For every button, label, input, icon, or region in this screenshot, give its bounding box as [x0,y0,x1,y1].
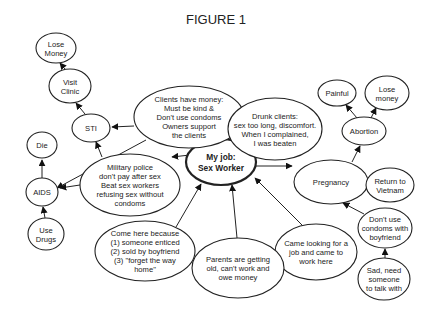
node-label-line: home" [134,265,156,274]
node-label-line: sex too long, discomfort. [234,121,316,130]
node-label-line: (1) someone enticed [110,238,179,247]
edge-use-drugs-to-aids [43,207,45,218]
node-label-line: Use [39,226,53,235]
node-lose-money-l: LoseMoney [36,33,76,63]
node-label-line: refusing sex without [96,190,164,199]
node-clients: Clients have money:Must be kind &Don't u… [134,86,244,148]
node-label-line: Lose [379,85,395,94]
node-label-line: Money [45,49,68,58]
node-label-line: work here [298,257,332,266]
node-parents: Parents are gettingold, can't work andow… [192,238,284,298]
node-label-line: condoms with [362,224,408,233]
node-lose-money-r: Losemoney [365,76,409,110]
node-label-line: Come here because [111,229,179,238]
node-label-line: My job: [206,152,235,162]
node-label-line: Military police [107,163,153,172]
node-die: Die [27,132,57,158]
node-label-line: Clients have money: [155,95,224,104]
node-label-line: Painful [325,89,349,98]
edge-parents-to-center [232,185,237,238]
node-label-line: Drunk clients: [252,112,298,121]
node-label-line: someone [368,275,399,284]
node-label-line: Clinic [61,87,80,96]
node-pregnancy: Pregnancy [294,160,368,204]
node-label-line: Parents are getting [206,255,270,264]
edge-visit-clinic-to-lose-money [60,63,65,69]
node-label-line: don't pay after sex [99,172,161,181]
node-label-line: condoms [115,199,146,208]
node-label-line: Die [36,141,47,150]
node-use-drugs: UseDrugs [28,218,64,250]
node-label-line: I was beaten [253,139,296,148]
node-label-line: Sad, need [367,266,402,275]
node-drunk: Drunk clients:sex too long, discomfort.W… [228,98,322,160]
edge-pregnancy-to-abortion [352,146,360,162]
node-label-line: boyfriend [369,233,400,242]
node-label-line: Owners support [162,122,216,131]
node-label-line: Pregnancy [313,178,350,187]
edge-dont-use-to-pregnancy [343,203,364,214]
node-visit-clinic: VisitClinic [49,69,91,103]
node-label-line: Don't use condoms [157,113,222,122]
node-sad: Sad, needsomeoneto talk with [358,258,410,300]
node-label-line: Vietnam [376,186,404,195]
edge-military-to-sti [96,142,102,157]
edge-abortion-to-lose-money [371,108,376,118]
node-label-line: When I complained, [241,130,308,139]
node-aids: AIDS [26,178,58,206]
node-label-line: (2) sold by boyfriend [111,247,180,256]
node-label-line: Return to [374,177,405,186]
node-sti: STI [72,114,110,142]
node-label-line: Don't use [369,215,401,224]
node-label-line: Visit [63,78,78,87]
node-label-line: AIDS [33,188,51,197]
node-return-vietnam: Return toVietnam [366,168,414,202]
node-label-line: (3) "forget the way [114,256,176,265]
node-label-line: Must be kind & [164,104,214,113]
node-label-line: to talk with [366,284,402,293]
node-label-line: old, can't work and [206,264,269,273]
concept-map: FIGURE 1 My job:Sex WorkerClients have m… [0,0,433,312]
node-label-line: Sex Worker [198,163,245,173]
node-label-line: Lose [48,40,64,49]
node-label-line: Came looking for a [284,239,349,248]
node-label-line: owe money [219,273,258,282]
edge-clients-to-sti [112,126,134,127]
edge-sti-to-visit-clinic [76,103,85,114]
node-label-line: the clients [172,131,206,140]
node-military: Military policedon't pay after sexBeat s… [80,154,180,216]
node-label-line: Drugs [36,235,56,244]
node-come-here: Come here because(1) someone enticed(2) … [95,221,195,281]
edge-abortion-to-painful [346,105,357,118]
node-label-line: STI [85,124,97,133]
node-label-line: job and came to [288,248,343,257]
node-abortion: Abortion [342,117,386,145]
figure-title: FIGURE 1 [186,12,246,27]
node-came-looking: Came looking for ajob and came towork he… [275,224,357,280]
node-dont-use: Don't usecondoms withboyfriend [358,208,412,248]
node-label-line: Beat sex workers [101,181,159,190]
nodes-layer: My job:Sex WorkerClients have money:Must… [26,33,414,300]
node-label-line: Abortion [350,127,378,136]
edge-military-to-aids [60,185,80,188]
node-label-line: money [376,94,399,103]
node-painful: Painful [318,80,356,106]
